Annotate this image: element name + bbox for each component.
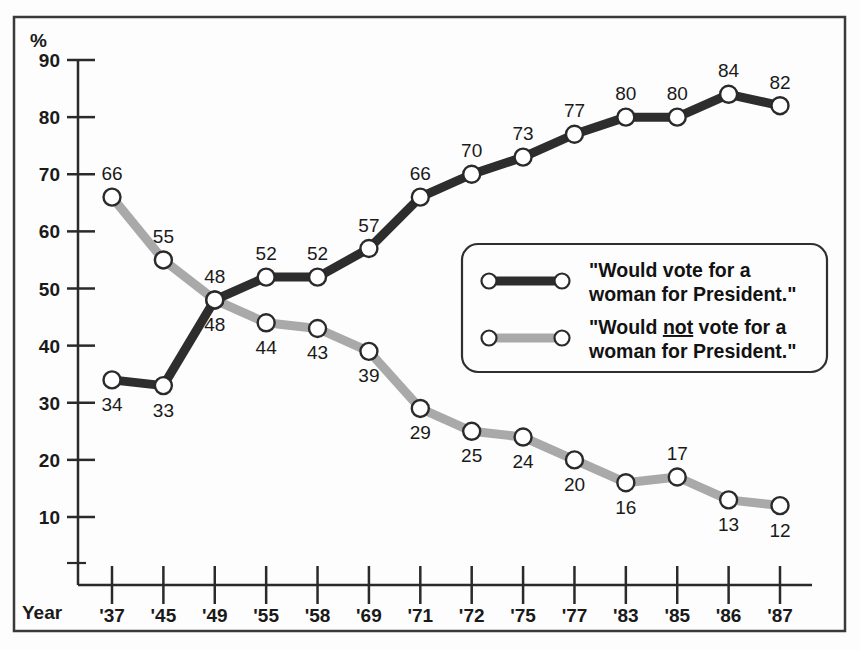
y-tick-label-40: 40 xyxy=(39,336,60,357)
data-point-label: 55 xyxy=(153,226,174,247)
data-point-label: 29 xyxy=(410,422,431,443)
data-point-label: 48 xyxy=(204,314,225,335)
x-tick-label-86: '86 xyxy=(716,605,742,626)
data-point-label: 33 xyxy=(153,400,174,421)
x-tick-label-87: '87 xyxy=(767,605,793,626)
data-point-label: 12 xyxy=(769,520,790,541)
data-point-label: 25 xyxy=(461,445,482,466)
data-point-label: 73 xyxy=(513,123,534,144)
x-tick-label-71: '71 xyxy=(407,605,433,626)
data-point-marker[interactable] xyxy=(360,343,377,360)
data-point-marker[interactable] xyxy=(669,469,686,486)
legend-label-line1-would-vote: "Would vote for a xyxy=(589,259,751,281)
data-point-label: 39 xyxy=(358,365,379,386)
gray-swatch-marker-left-icon xyxy=(482,331,497,346)
x-tick-label-45: '45 xyxy=(151,605,177,626)
y-axis-ticks: 908070605040302010 xyxy=(39,50,95,563)
dark-swatch-marker-left-icon xyxy=(482,274,497,289)
y-tick-label-60: 60 xyxy=(39,221,60,242)
x-tick-label-85: '85 xyxy=(664,605,690,626)
data-point-marker[interactable] xyxy=(155,377,172,394)
data-point-label: 52 xyxy=(256,243,277,264)
data-point-label: 16 xyxy=(615,497,636,518)
line-chart: % 908070605040302010 6655484443392925242… xyxy=(0,0,860,650)
data-point-label: 24 xyxy=(513,451,535,472)
data-point-marker[interactable] xyxy=(155,251,172,268)
y-tick-label-80: 80 xyxy=(39,107,60,128)
data-point-marker[interactable] xyxy=(412,189,429,206)
legend-text-underlined-not: not xyxy=(663,316,694,338)
gray-swatch-marker-right-icon xyxy=(555,331,570,346)
data-point-label: 20 xyxy=(564,474,585,495)
x-axis-tick-labels: '37'45'49'55'58'69'71'72'75'77'83'85'86'… xyxy=(99,605,793,626)
data-point-marker[interactable] xyxy=(772,497,789,514)
data-point-marker[interactable] xyxy=(309,320,326,337)
data-point-label: 34 xyxy=(101,394,123,415)
x-tick-label-37: '37 xyxy=(99,605,125,626)
data-point-marker[interactable] xyxy=(566,126,583,143)
legend-label-line2-would-not-vote: woman for President." xyxy=(588,340,797,362)
x-tick-label-49: '49 xyxy=(202,605,228,626)
data-point-label: 66 xyxy=(101,163,122,184)
data-point-marker[interactable] xyxy=(104,189,121,206)
y-tick-label-70: 70 xyxy=(39,164,60,185)
data-point-marker[interactable] xyxy=(515,149,532,166)
data-point-marker[interactable] xyxy=(720,86,737,103)
data-point-marker[interactable] xyxy=(669,109,686,126)
x-tick-label-83: '83 xyxy=(613,605,639,626)
data-point-marker[interactable] xyxy=(258,269,275,286)
data-point-marker[interactable] xyxy=(720,491,737,508)
data-point-marker[interactable] xyxy=(617,474,634,491)
data-point-label: 48 xyxy=(204,266,225,287)
data-point-label: 52 xyxy=(307,243,328,264)
data-point-label: 57 xyxy=(358,215,379,236)
chart-container: % 908070605040302010 6655484443392925242… xyxy=(0,0,860,650)
x-tick-label-72: '72 xyxy=(459,605,485,626)
data-point-marker[interactable] xyxy=(515,429,532,446)
y-tick-label-50: 50 xyxy=(39,279,60,300)
y-axis-unit-label: % xyxy=(30,30,47,51)
data-point-marker[interactable] xyxy=(463,166,480,183)
dark-swatch-marker-right-icon xyxy=(555,274,570,289)
data-point-label: 66 xyxy=(410,163,431,184)
data-point-marker[interactable] xyxy=(104,371,121,388)
legend-label-line1-would-not-vote: "Would not vote for a xyxy=(589,316,787,338)
x-axis-title: Year xyxy=(22,602,63,623)
data-point-label: 44 xyxy=(256,337,278,358)
x-tick-label-55: '55 xyxy=(253,605,279,626)
data-point-label: 80 xyxy=(615,83,636,104)
data-point-marker[interactable] xyxy=(360,240,377,257)
x-tick-label-75: '75 xyxy=(510,605,536,626)
data-point-marker[interactable] xyxy=(463,423,480,440)
y-tick-label-10: 10 xyxy=(39,507,60,528)
data-point-marker[interactable] xyxy=(258,314,275,331)
data-point-label: 43 xyxy=(307,342,328,363)
y-tick-label-30: 30 xyxy=(39,393,60,414)
data-point-label: 17 xyxy=(667,443,688,464)
data-point-label: 70 xyxy=(461,140,482,161)
data-point-marker[interactable] xyxy=(309,269,326,286)
y-tick-label-20: 20 xyxy=(39,450,60,471)
data-point-label: 84 xyxy=(718,60,740,81)
legend-label-line2-would-vote: woman for President." xyxy=(588,283,797,305)
legend[interactable]: "Would vote for a woman for President." … xyxy=(462,244,827,372)
data-point-label: 80 xyxy=(667,83,688,104)
x-tick-label-77: '77 xyxy=(562,605,588,626)
data-point-label: 13 xyxy=(718,514,739,535)
x-tick-label-58: '58 xyxy=(305,605,331,626)
data-point-marker[interactable] xyxy=(617,109,634,126)
legend-text-post: vote for a xyxy=(693,316,786,338)
y-tick-label-90: 90 xyxy=(39,50,60,71)
data-point-label: 77 xyxy=(564,100,585,121)
data-point-marker[interactable] xyxy=(206,291,223,308)
data-point-marker[interactable] xyxy=(412,400,429,417)
data-point-marker[interactable] xyxy=(772,97,789,114)
x-tick-label-69: '69 xyxy=(356,605,382,626)
legend-text-pre: "Would xyxy=(589,316,663,338)
data-point-label: 82 xyxy=(769,72,790,93)
data-point-marker[interactable] xyxy=(566,451,583,468)
